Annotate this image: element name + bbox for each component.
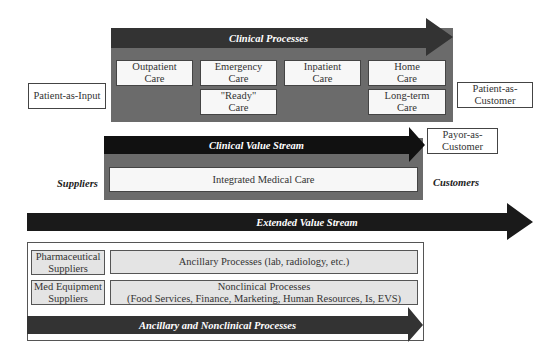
ready-care-box: "Ready" Care bbox=[200, 89, 277, 115]
clinical-processes-label: Clinical Processes bbox=[111, 28, 426, 48]
long-term-care-box: Long-term Care bbox=[368, 89, 446, 115]
outpatient-care-box: Outpatient Care bbox=[116, 60, 193, 86]
ancillary-arrow-label: Ancillary and Nonclinical Processes bbox=[27, 316, 408, 334]
clinical-value-stream-label: Clinical Value Stream bbox=[104, 136, 409, 154]
inpatient-care-box: Inpatient Care bbox=[284, 60, 361, 86]
customers-label: Customers bbox=[433, 177, 479, 188]
pharmaceutical-suppliers-box: Pharmaceutical Suppliers bbox=[31, 250, 105, 275]
emergency-care-box: Emergency Care bbox=[200, 60, 277, 86]
home-care-box: Home Care bbox=[368, 60, 446, 86]
suppliers-label: Suppliers bbox=[57, 178, 98, 189]
integrated-medical-care-box: Integrated Medical Care bbox=[109, 167, 418, 192]
med-equipment-suppliers-box: Med Equipment Suppliers bbox=[31, 280, 105, 305]
patient-as-input-box: Patient-as-Input bbox=[28, 83, 106, 109]
ancillary-processes-box: Ancillary Processes (lab, radiology, etc… bbox=[110, 250, 418, 274]
extended-value-stream-label: Extended Value Stream bbox=[27, 213, 547, 231]
nonclinical-processes-box: Nonclinical Processes (Food Services, Fi… bbox=[110, 280, 418, 305]
payor-as-customer-box: Payor-as- Customer bbox=[427, 128, 498, 154]
patient-as-customer-box: Patient-as- Customer bbox=[457, 82, 533, 108]
